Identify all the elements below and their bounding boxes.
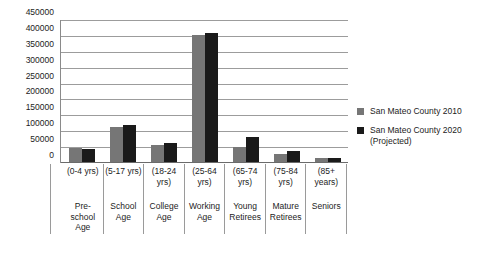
bar <box>287 151 300 162</box>
x-axis-line <box>61 162 348 163</box>
bar-group <box>307 20 348 162</box>
category-name-label: College Age <box>144 198 184 234</box>
legend-item[interactable]: San Mateo County 2010 <box>357 106 493 117</box>
bar <box>123 125 136 162</box>
legend-swatch-icon <box>357 108 364 115</box>
y-axis-tick-250000: 250000 <box>26 72 54 80</box>
bar <box>164 143 177 162</box>
y-axis-tick-0: 0 <box>49 151 54 159</box>
category-name-label: Pre-school Age <box>63 198 103 234</box>
category-column: (75-84 yrs)Mature Retirees <box>266 164 307 234</box>
y-axis-tick-labels: 4500004000003500003000002500002000001500… <box>0 12 58 164</box>
bar <box>315 158 328 162</box>
bar-chart: 4500004000003500003000002500002000001500… <box>0 0 493 261</box>
y-axis-tick-150000: 150000 <box>26 103 54 111</box>
bar-group <box>61 20 102 162</box>
category-range-label: (75-84 yrs) <box>266 164 306 198</box>
category-range-label: (85+ years) <box>306 164 346 198</box>
y-axis-tick-400000: 400000 <box>26 24 54 32</box>
category-table-spacer <box>51 164 63 234</box>
bar-group <box>184 20 225 162</box>
category-range-label: (65-74 yrs) <box>225 164 265 198</box>
y-axis-tick-200000: 200000 <box>26 87 54 95</box>
bar-series-container <box>61 20 348 162</box>
category-range-label: (25-64 yrs) <box>185 164 225 198</box>
bar <box>328 158 341 162</box>
category-name-label: Mature Retirees <box>266 198 306 234</box>
legend-label: San Mateo County 2010 <box>370 106 462 117</box>
category-name-label: School Age <box>104 198 144 234</box>
category-column: (5-17 yrs)School Age <box>104 164 145 234</box>
bar <box>110 127 123 162</box>
bar <box>205 33 218 162</box>
category-name-label: Seniors <box>306 198 346 234</box>
legend-item[interactable]: San Mateo County 2020 (Projected) <box>357 125 493 147</box>
category-column: (25-64 yrs)Working Age <box>185 164 226 234</box>
y-axis-tick-100000: 100000 <box>26 119 54 127</box>
y-axis-tick-300000: 300000 <box>26 56 54 64</box>
bar-group <box>266 20 307 162</box>
category-name-label: Young Retirees <box>225 198 265 234</box>
bar <box>274 154 287 162</box>
bar <box>82 149 95 162</box>
category-axis-table: (0-4 yrs)Pre-school Age(5-17 yrs)School … <box>50 164 347 234</box>
category-range-label: (18-24 yrs) <box>144 164 184 198</box>
category-column: (85+ years)Seniors <box>306 164 347 234</box>
category-column: (18-24 yrs)College Age <box>144 164 185 234</box>
bar <box>151 145 164 162</box>
bar-group <box>143 20 184 162</box>
category-name-label: Working Age <box>185 198 225 234</box>
chart-legend: San Mateo County 2010San Mateo County 20… <box>357 106 493 155</box>
category-range-label: (0-4 yrs) <box>63 164 103 198</box>
bar <box>69 148 82 162</box>
category-range-label: (5-17 yrs) <box>104 164 144 198</box>
legend-swatch-icon <box>357 127 364 134</box>
chart-root: 4500004000003500003000002500002000001500… <box>0 0 493 261</box>
bar <box>246 137 259 162</box>
category-column: (0-4 yrs)Pre-school Age <box>63 164 104 234</box>
bar-group <box>225 20 266 162</box>
y-axis-tick-50000: 50000 <box>30 135 54 143</box>
bar <box>192 35 205 162</box>
legend-label: San Mateo County 2020 (Projected) <box>370 125 493 147</box>
category-column: (65-74 yrs)Young Retirees <box>225 164 266 234</box>
y-axis-tick-450000: 450000 <box>26 8 54 16</box>
y-axis-tick-350000: 350000 <box>26 40 54 48</box>
plot-area <box>60 20 348 163</box>
bar-group <box>102 20 143 162</box>
bar <box>233 147 246 162</box>
